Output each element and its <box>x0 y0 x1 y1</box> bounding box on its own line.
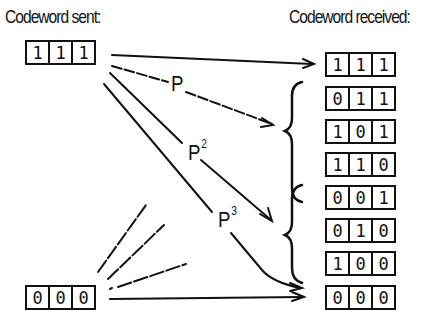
label-p3-exponent: 3 <box>231 204 237 218</box>
brace-icon <box>285 82 302 283</box>
transition-arrows <box>0 0 421 320</box>
arrow-p-segment <box>186 92 272 124</box>
arrow-p-segment <box>112 66 168 82</box>
dashed-line <box>98 205 146 272</box>
arrow-111-to-111 <box>112 55 312 64</box>
label-p2-exponent: 2 <box>201 137 207 151</box>
dashed-line <box>118 264 186 287</box>
label-p2-base: P <box>188 140 200 165</box>
label-p3-base: P <box>218 207 230 232</box>
double-error-brace-icon <box>285 185 302 283</box>
single-error-brace-icon <box>285 82 302 202</box>
arrow-000-to-000 <box>110 297 302 299</box>
label-p: P <box>171 71 183 97</box>
label-p-squared: P2 <box>188 140 207 166</box>
dashed-line <box>108 225 164 279</box>
dashed-line <box>110 288 112 289</box>
label-p-base: P <box>171 71 183 96</box>
label-p-cubed: P3 <box>218 207 237 233</box>
